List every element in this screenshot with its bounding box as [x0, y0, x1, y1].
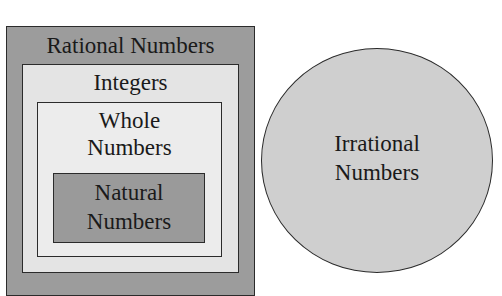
integers-label: Integers [23, 69, 238, 96]
natural-numbers-label: Natural Numbers [54, 178, 204, 236]
rational-numbers-set: Rational Numbers Integers Whole Numbers … [6, 26, 255, 296]
whole-numbers-label: Whole Numbers [38, 107, 221, 161]
natural-numbers-set: Natural Numbers [53, 173, 205, 243]
whole-numbers-set: Whole Numbers Natural Numbers [37, 102, 222, 257]
irrational-numbers-label: Irrational Numbers [262, 129, 492, 187]
rational-numbers-label: Rational Numbers [7, 32, 254, 59]
integers-set: Integers Whole Numbers Natural Numbers [22, 64, 239, 273]
irrational-numbers-set: Irrational Numbers [261, 48, 493, 273]
